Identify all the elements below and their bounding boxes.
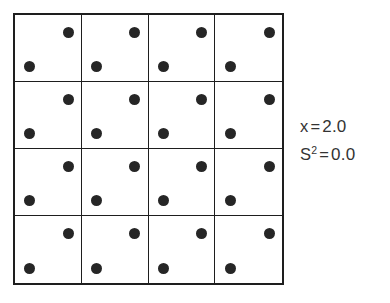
variance-value: 0.0 <box>331 145 355 164</box>
grid-cell <box>215 149 282 216</box>
statistics-block: x=2.0 S2=0.0 <box>300 113 386 168</box>
dot-marker <box>129 228 140 239</box>
grid-cell <box>82 216 149 283</box>
dot-marker <box>91 128 102 139</box>
grid-cell <box>149 15 216 82</box>
grid-cell <box>15 15 82 82</box>
dot-marker <box>91 61 102 72</box>
grid-cell <box>149 149 216 216</box>
dot-marker <box>196 27 207 38</box>
dot-marker <box>264 27 275 38</box>
grid-cell <box>149 216 216 283</box>
mean-statistic: x=2.0 <box>300 113 386 141</box>
grid-cell <box>215 216 282 283</box>
dot-marker <box>225 263 236 274</box>
dot-marker <box>225 128 236 139</box>
grid-cell <box>82 82 149 149</box>
dot-marker <box>63 94 74 105</box>
grid-cell <box>82 15 149 82</box>
dot-marker <box>158 195 169 206</box>
dot-marker <box>264 228 275 239</box>
dot-marker <box>91 263 102 274</box>
dot-marker <box>225 61 236 72</box>
variance-statistic: S2=0.0 <box>300 141 386 169</box>
mean-value: 2.0 <box>322 117 346 136</box>
dot-marker <box>196 94 207 105</box>
dot-marker <box>63 161 74 172</box>
dot-grid-figure: x=2.0 S2=0.0 <box>0 0 390 303</box>
dot-marker <box>24 195 35 206</box>
grid-cell <box>15 216 82 283</box>
dot-marker <box>129 94 140 105</box>
dot-marker <box>196 228 207 239</box>
dot-grid <box>13 13 284 285</box>
dot-marker <box>63 27 74 38</box>
grid-cell <box>149 82 216 149</box>
dot-marker <box>225 195 236 206</box>
dot-marker <box>264 94 275 105</box>
dot-marker <box>158 128 169 139</box>
grid-cell <box>82 149 149 216</box>
grid-cell <box>215 15 282 82</box>
dot-marker <box>158 263 169 274</box>
dot-marker <box>264 161 275 172</box>
dot-marker <box>91 195 102 206</box>
dot-marker <box>196 161 207 172</box>
dot-marker <box>63 228 74 239</box>
variance-equals: = <box>317 145 331 163</box>
dot-marker <box>24 61 35 72</box>
grid-cell <box>215 82 282 149</box>
dot-marker <box>158 61 169 72</box>
dot-marker <box>129 161 140 172</box>
variance-symbol: S <box>300 145 311 163</box>
dot-marker <box>129 27 140 38</box>
grid-cell <box>15 82 82 149</box>
grid-cell <box>15 149 82 216</box>
dot-marker <box>24 128 35 139</box>
mean-equals: = <box>308 117 322 135</box>
dot-marker <box>24 263 35 274</box>
